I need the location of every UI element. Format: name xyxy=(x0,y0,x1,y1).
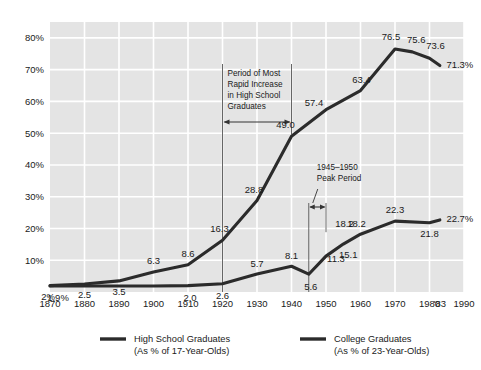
data-point-label: 3.5 xyxy=(112,286,125,297)
data-point-label: 5.6 xyxy=(304,281,317,292)
data-point-label: 22.3 xyxy=(386,204,405,215)
line-chart: 10%20%30%40%50%60%70%80% 187018801890190… xyxy=(0,0,481,370)
annotation-text-line: Graduates xyxy=(228,102,266,111)
data-point-label: 76.5 xyxy=(382,31,401,42)
data-point-label: 2.5 xyxy=(78,289,91,300)
data-point-label: 73.6 xyxy=(426,40,445,51)
legend-label: College Graduates xyxy=(334,334,412,344)
y-axis-tick-label: 70% xyxy=(25,64,45,75)
legend-sublabel: (As % of 23-Year-Olds) xyxy=(334,346,429,356)
x-axis-tick-label: 1970 xyxy=(384,298,405,309)
data-point-label: 22.7% xyxy=(446,213,473,224)
chart-container: 10%20%30%40%50%60%70%80% 187018801890190… xyxy=(0,0,481,370)
data-point-label: 18.2 xyxy=(335,218,354,229)
data-point-label: 75.6 xyxy=(407,34,426,45)
y-axis-tick-label: 40% xyxy=(25,159,45,170)
data-point-label: 15.1 xyxy=(339,249,358,260)
data-point-label: 71.3% xyxy=(446,59,473,70)
y-axis-tick-labels: 10%20%30%40%50%60%70%80% xyxy=(25,32,45,265)
data-point-label: 49.0 xyxy=(276,119,295,130)
x-axis-tick-label: 1930 xyxy=(246,298,267,309)
y-axis-tick-label: 20% xyxy=(25,223,45,234)
y-axis-tick-label: 30% xyxy=(25,191,45,202)
x-axis-tick-labels: 1870188018901900191019201930194019501960… xyxy=(39,298,474,309)
data-point-label: 2.6 xyxy=(216,290,229,301)
data-point-label: 1.9% xyxy=(47,292,69,303)
x-axis-tick-label: 1940 xyxy=(281,298,302,309)
data-point-label: 21.8 xyxy=(420,228,439,239)
data-point-label: 6.3 xyxy=(147,255,160,266)
data-point-label: 63.4 xyxy=(352,74,371,85)
y-axis-tick-label: 80% xyxy=(25,32,45,43)
annotation-text-line: in High School xyxy=(228,91,281,100)
data-point-label: 2.0 xyxy=(183,292,196,303)
legend: High School Graduates(As % of 17-Year-Ol… xyxy=(100,334,429,356)
data-point-label: 28.8 xyxy=(245,184,264,195)
x-axis-tick-label: 1960 xyxy=(350,298,371,309)
data-point-label: 16.3 xyxy=(210,223,229,234)
y-axis-tick-label: 10% xyxy=(25,255,45,266)
y-axis-tick-label: 60% xyxy=(25,96,45,107)
data-point-label: 8.1 xyxy=(285,250,298,261)
annotation-text-line: Rapid Increase xyxy=(228,80,284,89)
x-axis-tick-label: 1990 xyxy=(453,298,474,309)
annotation-text-line: 1945–1950 xyxy=(317,163,358,172)
legend-label: High School Graduates xyxy=(134,334,230,344)
x-axis-tick-label: 1900 xyxy=(143,298,164,309)
annotation-text-line: Peak Period xyxy=(317,174,362,183)
x-axis-tick-label: '83 xyxy=(434,298,446,309)
x-axis-tick-label: 1890 xyxy=(108,298,129,309)
data-point-label: 57.4 xyxy=(305,97,324,108)
data-point-label: 5.7 xyxy=(250,258,263,269)
x-axis-tick-label: 1950 xyxy=(315,298,336,309)
annotation-text-line: Period of Most xyxy=(228,69,282,78)
y-axis-tick-label: 50% xyxy=(25,128,45,139)
data-point-label: 8.6 xyxy=(181,248,194,259)
legend-sublabel: (As % of 17-Year-Olds) xyxy=(134,346,229,356)
